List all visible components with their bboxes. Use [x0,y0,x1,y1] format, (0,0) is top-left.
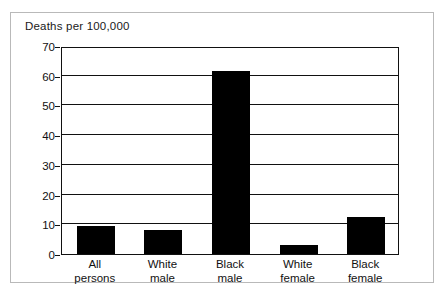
x-axis-tick-label-line: female [348,272,383,286]
y-axis-tick-label: 40 [42,130,55,142]
x-axis-tick-label-line: White [280,258,315,272]
x-axis-tick-label: Blackmale [216,258,244,285]
x-axis-tick-label-line: Black [348,258,383,272]
chart-title: Deaths per 100,000 [25,20,130,32]
y-axis-tick-mark [55,77,60,78]
x-axis-tick-label-line: persons [74,272,115,286]
bar [144,230,182,254]
x-axis-tick-label-line: Black [216,258,244,272]
x-axis-tick-label: Whitefemale [280,258,315,285]
y-axis-tick-label: 30 [42,160,55,172]
x-axis-tick-label: Allpersons [74,258,115,285]
x-axis-tick-label-line: White [148,258,177,272]
chart-figure: Deaths per 100,000 010203040506070 Allpe… [10,12,434,283]
y-axis-tick-mark [55,47,60,48]
x-axis-tick-label-line: male [148,272,177,286]
y-axis-tick-mark [55,166,60,167]
bar [77,226,115,254]
x-axis-tick-labels: AllpersonsWhitemaleBlackmaleWhitefemaleB… [61,258,399,298]
x-axis-tick-label-line: All [74,258,115,272]
x-axis-tick-label-line: male [216,272,244,286]
x-axis-tick-label-line: female [280,272,315,286]
y-axis-tick-labels: 010203040506070 [19,47,55,255]
y-axis-tick-mark [55,255,60,256]
y-axis-tick-mark [55,106,60,107]
x-axis-tick-label: Blackfemale [348,258,383,285]
y-axis-tick-label: 20 [42,190,55,202]
y-axis-tick-label: 60 [42,71,55,83]
y-axis-tick-mark [55,225,60,226]
y-axis-tick-label: 70 [42,41,55,53]
x-axis-tick-label: Whitemale [148,258,177,285]
plot-area [61,47,399,255]
bar [212,71,250,254]
y-axis-tick-mark [55,196,60,197]
y-axis-tick-mark [55,136,60,137]
y-axis-tick-label: 10 [42,219,55,231]
y-axis-tick-label: 50 [42,100,55,112]
bar [280,245,318,254]
bar [347,217,385,254]
